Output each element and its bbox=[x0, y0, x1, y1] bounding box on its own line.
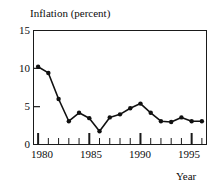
data-point-1991 bbox=[149, 111, 153, 115]
data-point-1980 bbox=[36, 65, 40, 69]
data-point-1986 bbox=[97, 129, 101, 133]
data-point-1990 bbox=[138, 101, 142, 105]
data-point-1995 bbox=[189, 119, 193, 123]
x-axis-ticks bbox=[38, 133, 202, 145]
data-point-1985 bbox=[87, 116, 91, 120]
data-point-1989 bbox=[128, 106, 132, 110]
data-point-1981 bbox=[46, 71, 50, 75]
y-axis-ticks bbox=[33, 68, 40, 106]
data-point-markers bbox=[36, 65, 204, 134]
data-point-1996 bbox=[200, 119, 204, 123]
data-point-1993 bbox=[169, 120, 173, 124]
data-point-1983 bbox=[67, 119, 71, 123]
data-point-1987 bbox=[108, 115, 112, 119]
data-point-1984 bbox=[77, 111, 81, 115]
chart-plot-area bbox=[0, 0, 222, 189]
data-point-1982 bbox=[56, 97, 60, 101]
chart-figure: Inflation (percent) 15 10 5 0 1980 1985 … bbox=[0, 0, 222, 189]
data-point-1988 bbox=[118, 112, 122, 116]
data-point-1992 bbox=[159, 119, 163, 123]
data-point-1994 bbox=[179, 115, 183, 119]
data-line-inflation bbox=[38, 67, 202, 131]
